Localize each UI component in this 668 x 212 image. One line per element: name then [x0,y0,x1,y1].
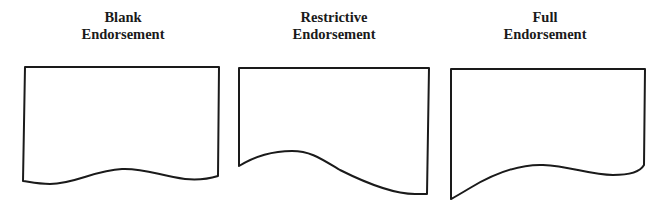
endorsement-diagram [0,0,668,212]
blank-endorsement-document-shape [23,67,219,184]
full-endorsement-document-shape [451,69,645,199]
restrictive-endorsement-document-shape [239,68,429,194]
